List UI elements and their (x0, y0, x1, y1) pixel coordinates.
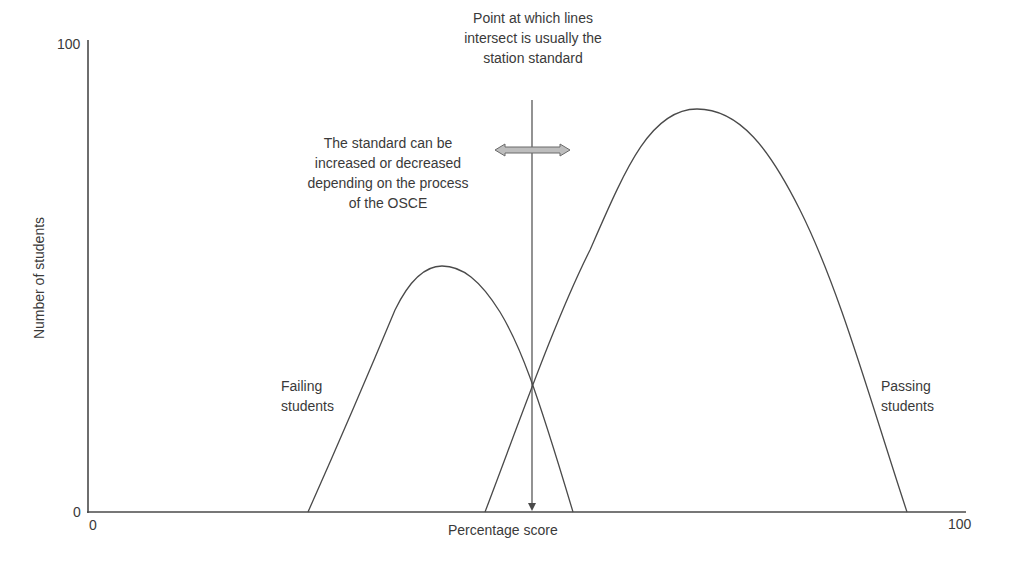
failing-label-line-2: students (281, 396, 334, 416)
passing-label-line-2: students (881, 396, 934, 416)
standard-note-line-1: The standard can be (288, 133, 488, 153)
passing-label-line-1: Passing (881, 376, 934, 396)
standard-note-line-2: increased or decreased (288, 153, 488, 173)
passing-students-curve (485, 109, 907, 512)
standard-annotation: The standard can be increased or decreas… (288, 133, 488, 213)
failing-label-line-1: Failing (281, 376, 334, 396)
intersect-note-line-1: Point at which lines (448, 8, 618, 28)
intersect-annotation: Point at which lines intersect is usuall… (448, 8, 618, 68)
standard-note-line-3: depending on the process (288, 173, 488, 193)
standard-note-line-4: of the OSCE (288, 193, 488, 213)
failing-students-curve (308, 266, 573, 512)
standard-arrowhead-icon (528, 503, 536, 511)
y-tick-min: 0 (73, 502, 81, 522)
intersect-note-line-3: station standard (448, 48, 618, 68)
y-tick-max: 100 (57, 34, 80, 54)
passing-students-label: Passing students (881, 376, 934, 416)
x-tick-max: 100 (948, 514, 971, 534)
failing-students-label: Failing students (281, 376, 334, 416)
x-axis-label: Percentage score (448, 520, 558, 540)
x-tick-min: 0 (89, 515, 97, 535)
chart-canvas (0, 0, 1014, 562)
y-axis-label: Number of students (31, 217, 47, 339)
intersect-note-line-2: intersect is usually the (448, 28, 618, 48)
